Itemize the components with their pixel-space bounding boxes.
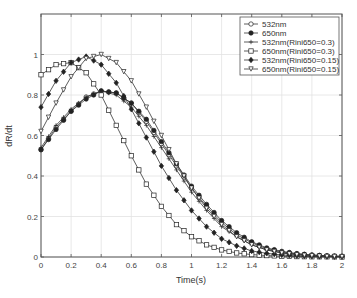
y-tick-label: 0.6 [27,132,39,141]
x-tick-label: 1.8 [306,261,318,270]
legend: 532nm650nm532nm(Rini650=0.3)650nm(Rini65… [240,17,339,75]
x-tick-label: 1.2 [216,261,228,270]
y-tick-label: 0.2 [27,213,39,222]
y-tick-label: 0 [34,253,39,262]
x-tick-label: 1.4 [246,261,258,270]
legend-label: 532nm [262,20,287,29]
y-tick-label: 1 [34,51,39,60]
legend-label: 650nm(Rini650=0.3) [262,47,335,56]
x-tick-label: 0.2 [66,261,78,270]
y-axis-label: dR/dt [4,125,14,147]
x-tick-label: 0.8 [156,261,168,270]
x-tick-label: 0 [39,261,44,270]
line-chart: 00.20.40.60.811.21.41.61.8200.20.40.60.8… [0,0,357,298]
x-tick-label: 1 [189,261,194,270]
y-tick-label: 0.8 [27,91,39,100]
y-tick-label: 0.4 [27,172,39,181]
legend-label: 650nm(Rini650=0.15) [262,65,339,74]
x-axis-label: Time(s) [176,275,206,285]
x-tick-label: 0.4 [96,261,108,270]
legend-label: 650nm [262,29,287,38]
x-tick-label: 0.6 [126,261,138,270]
legend-label: 532nm(Rini650=0.3) [262,38,335,47]
x-tick-label: 1.6 [276,261,288,270]
legend-label: 532nm(Rini650=0.15) [262,56,339,65]
x-tick-label: 2 [340,261,345,270]
